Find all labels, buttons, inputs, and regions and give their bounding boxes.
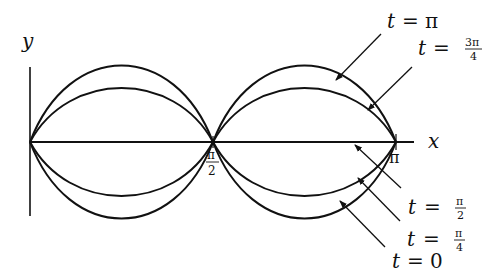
svg-text:4: 4: [470, 50, 477, 63]
arrow-t-pi4: [358, 178, 400, 221]
svg-text:t: t: [418, 36, 427, 60]
arrow-t-0: [340, 201, 385, 247]
svg-text:4: 4: [456, 241, 463, 254]
standing-wave-diagram: y x π 2 π t = π t = 3π 4 t = π 2 t = π 4…: [0, 0, 494, 279]
arrow-t-3pi4: [368, 67, 412, 110]
svg-text:t: t: [407, 227, 416, 251]
curve-t-pi: [30, 66, 396, 143]
tick-label-pi: π: [389, 148, 400, 167]
label-t-0: t = 0: [392, 249, 443, 273]
x-axis-label: x: [428, 129, 439, 153]
svg-text:3π: 3π: [465, 36, 479, 49]
y-axis-label: y: [21, 29, 34, 53]
svg-text:π: π: [425, 9, 438, 33]
curve-t-3pi4: [30, 88, 396, 142]
svg-text:t: t: [392, 249, 401, 273]
svg-text:t: t: [408, 195, 417, 219]
label-t-pi2: t = π 2: [408, 195, 466, 222]
svg-text:=: =: [402, 9, 419, 33]
svg-text:=: =: [424, 195, 441, 219]
svg-text:=: =: [423, 227, 440, 251]
label-t-pi: t = π: [387, 9, 438, 33]
tick-label-pi-half-den: 2: [208, 164, 216, 178]
arrow-t-pi: [336, 34, 381, 80]
arrows: [336, 34, 412, 247]
svg-text:=: =: [407, 249, 424, 273]
label-t-3pi4: t = 3π 4: [418, 36, 482, 63]
svg-text:=: =: [433, 36, 450, 60]
svg-text:π: π: [456, 195, 463, 208]
svg-text:t: t: [387, 9, 396, 33]
svg-text:2: 2: [457, 209, 464, 222]
svg-text:π: π: [455, 227, 462, 240]
svg-text:0: 0: [430, 249, 443, 273]
tick-label-pi-half-num: π: [207, 148, 215, 162]
